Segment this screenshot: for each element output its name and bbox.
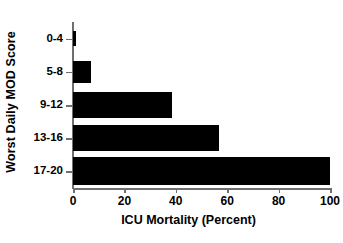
bar-17-20 xyxy=(73,157,330,185)
y-tick-label-9-12: 9-12 xyxy=(1,98,63,110)
y-tick-0-4 xyxy=(66,39,72,41)
x-axis-line xyxy=(73,188,331,190)
x-tick-label-80: 80 xyxy=(259,194,299,208)
bar-0-4 xyxy=(73,31,76,46)
y-tick-label-5-8: 5-8 xyxy=(1,65,63,77)
bar-chart: Worst Daily MOD Score 0-45-89-1213-1617-… xyxy=(0,0,343,243)
x-tick-80 xyxy=(279,188,281,193)
y-tick-9-12 xyxy=(66,105,72,107)
bar-5-8 xyxy=(73,61,91,83)
x-axis-title: ICU Mortality (Percent) xyxy=(0,213,343,227)
y-tick-13-16 xyxy=(66,138,72,140)
x-tick-60 xyxy=(227,188,229,193)
y-tick-17-20 xyxy=(66,171,72,173)
x-tick-label-40: 40 xyxy=(156,194,196,208)
bar-9-12 xyxy=(73,92,172,118)
x-tick-label-60: 60 xyxy=(207,194,247,208)
y-tick-label-17-20: 17-20 xyxy=(1,164,63,176)
y-tick-5-8 xyxy=(66,72,72,74)
x-tick-40 xyxy=(176,188,178,193)
x-tick-label-100: 100 xyxy=(310,194,343,208)
bar-13-16 xyxy=(73,125,219,151)
x-tick-label-0: 0 xyxy=(53,194,93,208)
plot-area xyxy=(73,22,330,188)
x-tick-label-20: 20 xyxy=(104,194,144,208)
x-tick-100 xyxy=(330,188,332,193)
x-tick-0 xyxy=(73,188,75,193)
x-tick-20 xyxy=(124,188,126,193)
y-tick-label-0-4: 0-4 xyxy=(1,32,63,44)
y-tick-label-13-16: 13-16 xyxy=(1,131,63,143)
